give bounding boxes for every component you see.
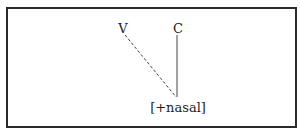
node-v: V bbox=[117, 21, 128, 36]
diagram-canvas: V C [+nasal] bbox=[0, 0, 300, 132]
feature-nasal: [+nasal] bbox=[150, 100, 206, 115]
dashed-association-line bbox=[125, 35, 176, 97]
node-c: C bbox=[173, 21, 183, 36]
